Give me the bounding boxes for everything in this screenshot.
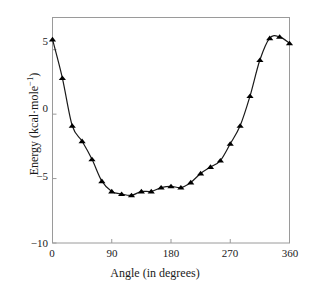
data-point-marker [49,37,56,42]
x-axis-label: Angle (in degrees) [0,266,310,281]
data-point-marker [69,123,76,128]
y-axis-label-prefix: Energy (kcal·mole [27,86,41,175]
y-axis-label-suffix: ) [27,73,41,77]
data-point-marker [237,123,244,128]
data-point-marker [256,57,263,62]
xtick-label: 90 [97,248,127,259]
data-point-marker [227,141,234,146]
data-markers [49,34,293,197]
axis-ticks [53,50,290,243]
data-curve [53,36,290,196]
data-point-marker [88,157,95,162]
y-axis-label-exponent: −1 [25,77,35,86]
data-point-marker [246,94,253,99]
y-axis-label-wrapper: Energy (kcal·mole−1) [24,24,40,224]
data-point-marker [98,179,105,184]
data-point-marker [59,75,66,80]
data-point-marker [79,139,86,144]
plot-frame [53,18,290,244]
data-point-marker [217,158,224,163]
chart-figure: 5 0 −5 −10 0 90 180 270 360 Angle (in de… [0,0,310,288]
xtick-label: 270 [215,248,245,259]
xtick-label: 0 [37,248,67,259]
y-axis-label: Energy (kcal·mole−1) [27,73,41,176]
xtick-label: 360 [275,248,305,259]
xtick-label: 180 [156,248,186,259]
